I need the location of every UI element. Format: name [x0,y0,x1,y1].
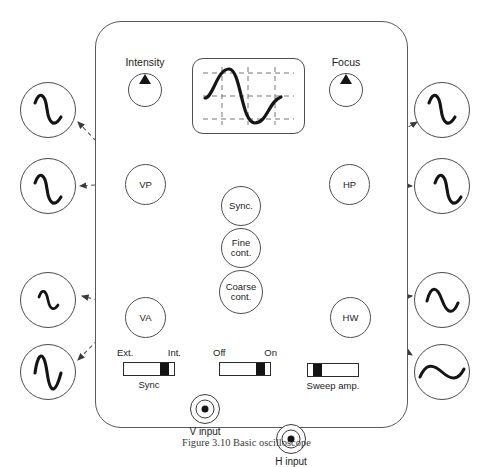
focus-knob-label: Focus [332,56,361,68]
crt-graticule-and-trace [193,59,304,133]
waveform-bubble-left-top [20,82,76,138]
sync-switch-knob[interactable] [160,363,169,375]
waveform-bubble-right-bottom [414,344,470,400]
sine-narrow-tall-waveform-icon [415,159,469,213]
horizontal-width-control[interactable]: HW [330,297,371,338]
intensity-knob-label: Intensity [125,56,164,68]
sync-switch-left-label: Ext. [117,347,133,358]
v-input-jack-label: V input [189,426,220,437]
intensity-knob-pointer-icon [139,74,151,84]
sweep-amp-switch-knob[interactable] [313,364,322,376]
h-input-jack-label: H input [275,456,307,467]
vp-label: VP [139,180,152,190]
power-switch-track[interactable] [219,362,271,376]
vertical-position-control[interactable]: VP [125,164,166,205]
waveform-bubble-left-bottom [20,344,76,400]
sweep-amp-switch-caption: Sweep amp. [307,380,360,391]
v-input-jack-pin-icon [202,406,209,413]
vertical-amplitude-control[interactable]: VA [125,297,166,338]
sweep-amp-switch[interactable]: Sweep amp. [307,363,359,377]
horizontal-position-control[interactable]: HP [329,164,370,205]
sine-narrow-tall-waveform-icon [21,159,75,213]
sync-switch[interactable]: Ext. Int. Sync [123,362,175,376]
power-switch-on-label: On [264,347,277,358]
sync-control-label: Sync. [229,201,253,211]
sweep-amp-switch-track[interactable] [307,363,359,377]
sine-narrow-tall-waveform-icon [415,83,469,137]
focus-knob[interactable]: Focus [329,73,363,107]
waveform-bubble-right-top [414,82,470,138]
sync-control[interactable]: Sync. [221,186,261,226]
waveform-bubble-right-upper [414,158,470,214]
power-switch-knob[interactable] [256,363,265,375]
intensity-knob[interactable]: Intensity [128,73,162,107]
sync-switch-caption: Sync [138,379,159,390]
coarse-cont-control[interactable]: Coarse cont. [219,270,263,314]
waveform-bubble-left-upper [20,158,76,214]
va-label: VA [140,313,152,323]
waveform-bubble-right-lower [414,272,470,328]
crt-display [192,58,305,134]
fine-cont-label-line2: cont. [231,248,252,258]
v-input-jack[interactable]: V input [190,394,220,424]
waveform-bubble-left-lower [20,272,76,328]
sine-narrow-tall-waveform-icon [21,83,75,137]
focus-knob-pointer-icon [340,74,352,84]
sine-wide-flat-waveform-icon [415,345,469,399]
fine-cont-control[interactable]: Fine cont. [221,228,261,268]
sync-switch-track[interactable] [123,362,175,376]
sine-medium-waveform-icon [415,273,469,327]
hw-label: HW [343,313,359,323]
sine-large-amplitude-waveform-icon [21,345,75,399]
power-switch-off-label: Off [213,347,226,358]
hp-label: HP [343,180,356,190]
sync-switch-right-label: Int. [168,347,181,358]
power-switch[interactable]: Off On [219,362,271,376]
sine-small-waveform-icon [21,273,75,327]
figure-caption: Figure 3.10 Basic oscilloscope [0,437,493,451]
coarse-cont-label-line2: cont. [226,292,257,302]
